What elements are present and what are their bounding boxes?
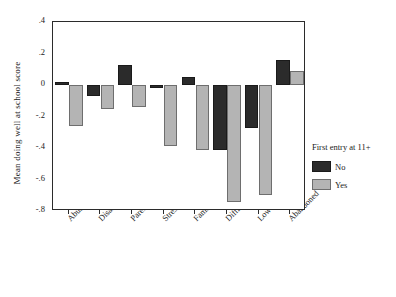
chart-legend: First entry at 11+ NoYes: [312, 142, 394, 197]
y-axis-tick-label: .4: [39, 15, 45, 25]
y-axis-tick-label: -.2: [36, 110, 45, 120]
legend-label-no: No: [335, 162, 345, 172]
bar-0-5: [213, 85, 227, 150]
bar-1-7: [290, 71, 304, 85]
legend-entry-yes: Yes: [312, 179, 394, 190]
y-axis-tick-label: -.8: [36, 204, 45, 214]
bar-0-7: [276, 60, 290, 85]
legend-swatch-yes: [312, 179, 331, 190]
legend-label-yes: Yes: [335, 180, 347, 190]
bar-1-6: [259, 85, 273, 195]
bar-0-6: [245, 85, 259, 128]
bar-1-2: [132, 85, 146, 107]
bar-0-2: [118, 65, 132, 85]
bar-1-3: [164, 85, 178, 146]
y-axis-tick-label: -.6: [36, 173, 45, 183]
y-axis-title: Mean doing well at school score: [12, 38, 22, 208]
bar-chart-figure: Mean doing well at school score .4.20-.2…: [0, 0, 396, 297]
bar-1-5: [227, 85, 241, 202]
bar-1-4: [196, 85, 210, 150]
y-axis-tick-label: .2: [39, 47, 45, 57]
y-axis-tick-label: 0: [41, 78, 45, 88]
bar-1-1: [101, 85, 115, 109]
legend-title: First entry at 11+: [312, 142, 394, 152]
y-axis-tick-label: -.4: [36, 141, 45, 151]
legend-swatch-no: [312, 161, 331, 172]
bar-0-4: [182, 77, 196, 85]
legend-entry-no: No: [312, 161, 394, 172]
legend-entries: NoYes: [312, 161, 394, 190]
bar-0-3: [150, 85, 164, 88]
bar-0-0: [55, 82, 69, 85]
bar-1-0: [69, 85, 83, 126]
plot-area: [52, 21, 305, 210]
bar-0-1: [87, 85, 101, 96]
